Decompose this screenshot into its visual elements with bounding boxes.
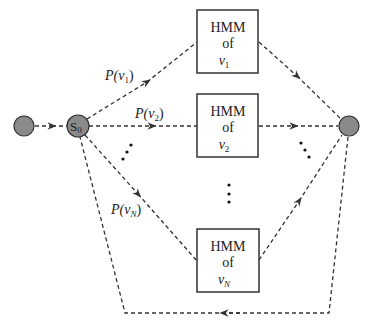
edge-label-p-v1: P(v1): [104, 68, 134, 85]
ellipsis-left-dots: [121, 143, 132, 160]
box2-sub: 2: [225, 144, 230, 154]
hmm-box-1: HMM of v1: [197, 10, 258, 73]
start-node: [14, 116, 34, 136]
s0-label: S: [70, 119, 77, 134]
s0-subscript: 0: [77, 125, 82, 135]
box1-of: of: [222, 36, 234, 51]
hmm-box-2: HMM of v2: [197, 94, 258, 157]
edge-hmmN-to-end: [259, 201, 299, 260]
box2-of: of: [222, 120, 234, 135]
ellipsis-middle-dots: [227, 183, 230, 203]
hmm-box-N: HMM of vN: [197, 229, 259, 292]
box2-title: HMM: [210, 104, 246, 119]
hmm-network-diagram: S0 HMM of v1 HMM of v2 HMM of vN P(v1) P…: [0, 0, 374, 329]
boxN-title: HMM: [210, 239, 246, 254]
edge-label-p-v2: P(v2): [134, 106, 164, 123]
end-node: [339, 116, 359, 136]
box1-title: HMM: [210, 20, 246, 35]
boxN-of: of: [222, 255, 234, 270]
box1-sub: 1: [225, 60, 230, 70]
boxN-sub: N: [223, 279, 231, 289]
diagram-svg: S0 HMM of v1 HMM of v2 HMM of vN P(v1) P…: [0, 0, 374, 329]
edge-label-p-vN: P(vN): [110, 202, 141, 219]
edge-hmm1-to-end: [259, 42, 297, 76]
ellipsis-right-dots: [299, 141, 310, 158]
